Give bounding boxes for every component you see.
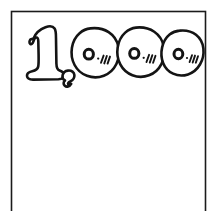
illustration-canvas: 1,000 bbox=[0, 0, 222, 211]
zero-center-hole bbox=[84, 49, 93, 59]
zero-outline bbox=[72, 28, 119, 77]
digit-zero-third bbox=[161, 30, 203, 75]
zero-center-hole bbox=[130, 49, 139, 59]
zero-shine-dot bbox=[186, 57, 188, 59]
artboard bbox=[0, 0, 222, 211]
digit-zero-first bbox=[72, 28, 119, 77]
zero-shine-dot bbox=[143, 57, 145, 59]
digit-zero-second bbox=[117, 27, 164, 76]
zero-shine-dot bbox=[97, 57, 99, 59]
zero-center-hole bbox=[174, 49, 183, 58]
zero-outline bbox=[117, 27, 164, 76]
